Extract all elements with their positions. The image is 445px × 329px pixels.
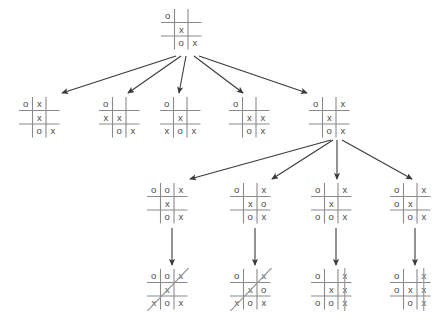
mark-o: o [327, 125, 332, 136]
mark-o: o [151, 184, 156, 195]
tree-edge-arrow [190, 140, 331, 179]
tree-edge-arrow [194, 56, 243, 93]
tic-tac-toe-board: oxoxox [389, 182, 432, 225]
mark-x: x [329, 284, 334, 295]
mark-o: o [233, 98, 238, 109]
mark-o: o [315, 297, 320, 308]
arrow-layer [0, 0, 445, 329]
mark-x: x [37, 112, 42, 123]
mark-o: o [247, 125, 252, 136]
mark-o: o [261, 284, 266, 295]
tree-edge-arrow [62, 56, 176, 93]
mark-x: x [340, 98, 345, 109]
mark-x: x [421, 184, 426, 195]
mark-x: x [178, 297, 183, 308]
mark-x: x [261, 211, 266, 222]
mark-o: o [408, 297, 413, 308]
tree-edge-arrow [128, 56, 181, 93]
mark-x: x [117, 112, 122, 123]
mark-x: x [103, 112, 108, 123]
mark-o: o [164, 98, 169, 109]
mark-o: o [329, 211, 334, 222]
mark-o: o [23, 98, 28, 109]
mark-o: o [165, 297, 170, 308]
mark-x: x [408, 284, 413, 295]
mark-o: o [315, 211, 320, 222]
mark-x: x [260, 112, 265, 123]
tic-tac-toe-board: oxxoxox [229, 268, 272, 311]
mark-o: o [394, 270, 399, 281]
mark-x: x [342, 211, 347, 222]
mark-o: o [178, 125, 183, 136]
mark-o: o [394, 198, 399, 209]
tic-tac-toe-board: oxxxoox [310, 268, 353, 311]
mark-o: o [165, 211, 170, 222]
mark-o: o [117, 125, 122, 136]
mark-x: x [178, 211, 183, 222]
mark-x: x [130, 125, 135, 136]
mark-o: o [234, 270, 239, 281]
mark-o: o [248, 297, 253, 308]
mark-x: x [178, 112, 183, 123]
mark-x: x [261, 184, 266, 195]
mark-x: x [247, 112, 252, 123]
mark-o: o [329, 297, 334, 308]
mark-x: x [261, 297, 266, 308]
mark-x: x [408, 198, 413, 209]
mark-o: o [315, 270, 320, 281]
tic-tac-toe-board: oxxox [308, 96, 351, 139]
tic-tac-toe-board: ooxxxox [146, 268, 189, 311]
tree-edge-arrow [272, 140, 333, 179]
mark-o: o [408, 211, 413, 222]
mark-x: x [178, 184, 183, 195]
mark-x: x [192, 37, 197, 48]
mark-x: x [327, 112, 332, 123]
mark-o: o [165, 184, 170, 195]
mark-o: o [313, 98, 318, 109]
mark-x: x [248, 198, 253, 209]
mark-o: o [248, 211, 253, 222]
mark-o: o [234, 184, 239, 195]
mark-x: x [37, 98, 42, 109]
mark-x: x [164, 125, 169, 136]
mark-o: o [151, 270, 156, 281]
tic-tac-toe-board: oxoxxox [389, 268, 432, 311]
tree-edge-arrow [199, 56, 307, 93]
tree-edge-arrow [179, 56, 186, 93]
mark-o: o [315, 184, 320, 195]
mark-x: x [50, 125, 55, 136]
tic-tac-toe-board: oxxox [159, 96, 202, 139]
tic-tac-toe-board: oxxox [228, 96, 271, 139]
mark-o: o [394, 184, 399, 195]
mark-o: o [261, 198, 266, 209]
tic-tac-toe-board: oxox [160, 8, 203, 51]
tic-tac-toe-board: oxxoox [310, 182, 353, 225]
mark-x: x [191, 125, 196, 136]
mark-x: x [329, 198, 334, 209]
mark-x: x [340, 125, 345, 136]
mark-x: x [342, 184, 347, 195]
mark-o: o [179, 37, 184, 48]
tic-tac-toe-board: oxxoox [229, 182, 272, 225]
mark-o: o [394, 284, 399, 295]
mark-x: x [179, 24, 184, 35]
mark-o: o [165, 10, 170, 21]
tic-tac-toe-board: oxxox [18, 96, 61, 139]
tic-tac-toe-board: oxxox [98, 96, 141, 139]
mark-o: o [103, 98, 108, 109]
tic-tac-toe-board: ooxxox [146, 182, 189, 225]
mark-x: x [421, 211, 426, 222]
mark-o: o [37, 125, 42, 136]
mark-o: o [165, 270, 170, 281]
tree-edge-arrow [342, 140, 412, 179]
game-tree-diagram: oxoxoxxoxoxxoxoxxoxoxxoxoxxoxooxxoxoxxoo… [0, 0, 445, 329]
mark-x: x [260, 125, 265, 136]
mark-x: x [165, 198, 170, 209]
